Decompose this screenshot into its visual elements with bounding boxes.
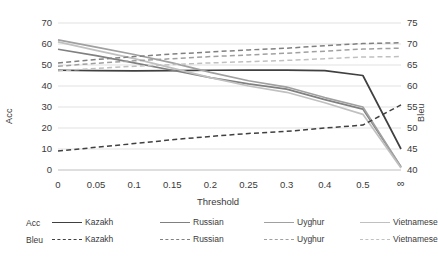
y-tick-left: 60: [26, 39, 52, 49]
chart-legend: AccKazakhRussianUyghurVietnameseBleuKaza…: [26, 216, 426, 252]
legend-swatch-icon: [264, 222, 294, 223]
y-axis-left-label: Acc: [4, 74, 14, 124]
legend-label: Kazakh: [85, 217, 113, 227]
y-tick-right: 75: [407, 18, 433, 28]
y-tick-right: 60: [407, 81, 433, 91]
y-tick-left: 70: [26, 18, 52, 28]
x-tick: 0: [38, 180, 78, 190]
legend-swatch-icon: [160, 222, 190, 223]
legend-swatch-icon: [360, 222, 390, 223]
x-tick: 0.1: [114, 180, 154, 190]
y-tick-left: 30: [26, 102, 52, 112]
legend-label: Russian: [193, 217, 224, 227]
legend-row-label: Bleu: [26, 235, 52, 245]
y-tick-right: 45: [407, 144, 433, 154]
legend-label: Vietnamese: [393, 217, 438, 227]
x-tick: 0.3: [267, 180, 307, 190]
legend-swatch-icon: [264, 239, 294, 240]
y-tick-left: 0: [26, 165, 52, 175]
legend-label: Uyghur: [297, 234, 324, 244]
legend-swatch-icon: [52, 239, 82, 240]
y-tick-right: 55: [407, 102, 433, 112]
y-tick-left: 20: [26, 123, 52, 133]
legend-label: Kazakh: [85, 234, 113, 244]
legend-swatch-icon: [52, 222, 82, 223]
x-tick: ∞: [381, 178, 421, 189]
x-tick: 0.2: [190, 180, 230, 190]
x-tick: 0.25: [229, 180, 269, 190]
x-tick: 0.5: [343, 180, 383, 190]
legend-row-acc: AccKazakhRussianUyghurVietnamese: [26, 216, 426, 231]
x-tick: 0.4: [305, 180, 345, 190]
legend-row-label: Acc: [26, 218, 52, 228]
legend-label: Russian: [193, 234, 224, 244]
legend-swatch-icon: [160, 239, 190, 240]
y-tick-right: 40: [407, 165, 433, 175]
x-axis-title: Threshold: [158, 196, 278, 207]
y-tick-left: 10: [26, 144, 52, 154]
legend-label: Vietnamese: [393, 234, 438, 244]
x-tick: 0.05: [76, 180, 116, 190]
legend-swatch-icon: [360, 239, 390, 240]
y-tick-left: 40: [26, 81, 52, 91]
x-tick: 0.15: [152, 180, 192, 190]
legend-label: Uyghur: [297, 217, 324, 227]
y-tick-right: 70: [407, 39, 433, 49]
y-tick-left: 50: [26, 60, 52, 70]
legend-row-bleu: BleuKazakhRussianUyghurVietnamese: [26, 233, 426, 248]
y-tick-right: 65: [407, 60, 433, 70]
y-tick-right: 50: [407, 123, 433, 133]
